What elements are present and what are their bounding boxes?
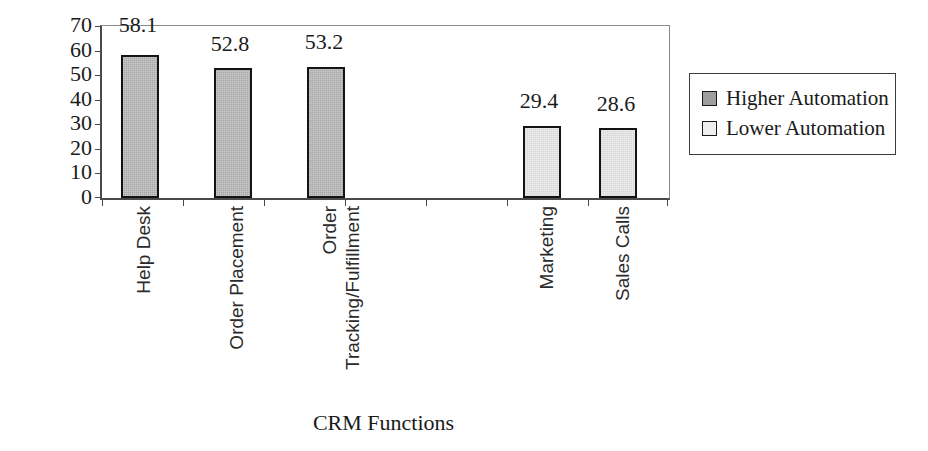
x-tick-mark: [588, 198, 589, 206]
y-tick-label: 0: [52, 186, 92, 208]
bar-value-label-help-desk: 58.1: [98, 14, 178, 36]
legend-swatch-icon: [702, 121, 717, 136]
legend: Higher Automation Lower Automation: [689, 73, 896, 155]
y-tick-mark: [95, 124, 102, 125]
bar-order-tracking-fulfillment: [307, 67, 345, 198]
legend-item-higher-automation: Higher Automation: [702, 83, 885, 113]
y-tick-mark: [95, 75, 102, 76]
y-tick-label: 30: [52, 112, 92, 134]
x-axis-label-text-line1: Order: [318, 206, 341, 255]
x-tick-mark: [102, 198, 103, 206]
y-axis-tick-labels: 70 60 50 40 30 20 10 0: [48, 0, 92, 451]
y-tick-label: 60: [52, 39, 92, 61]
y-tick-mark: [95, 149, 102, 150]
x-tick-mark: [667, 198, 668, 206]
y-tick-mark: [95, 51, 102, 52]
x-axis-label-text: Marketing: [535, 206, 558, 289]
legend-item-lower-automation: Lower Automation: [702, 113, 885, 143]
bar-order-placement: [214, 68, 252, 198]
y-tick-label: 10: [52, 161, 92, 183]
y-tick-mark: [95, 100, 102, 101]
x-axis-title: CRM Functions: [100, 410, 667, 436]
bar-chart: Percentage 70 60 50 40 30 20 10 0: [0, 0, 928, 451]
bar-value-label-marketing: 29.4: [499, 90, 579, 112]
x-tick-mark: [507, 198, 508, 206]
x-axis-label-text-line2: Tracking/Fulfillment: [341, 206, 364, 370]
x-tick-mark: [264, 198, 265, 206]
bar-help-desk: [121, 55, 159, 198]
bar-value-label-order-placement: 52.8: [190, 33, 270, 55]
y-tick-mark: [95, 197, 102, 198]
x-axis-label-text: Help Desk: [132, 206, 155, 294]
x-axis-label-text: Sales Calls: [611, 206, 634, 301]
y-tick-label: 70: [52, 14, 92, 36]
x-tick-mark: [345, 198, 346, 206]
bar-value-label-sales-calls: 28.6: [576, 93, 656, 115]
bar-sales-calls: [599, 128, 637, 198]
y-tick-label: 40: [52, 88, 92, 110]
legend-item-label: Higher Automation: [726, 88, 889, 109]
x-tick-mark: [183, 198, 184, 206]
legend-item-label: Lower Automation: [726, 118, 885, 139]
bar-value-label-order-tracking: 53.2: [284, 31, 364, 53]
y-tick-label: 50: [52, 63, 92, 85]
y-tick-label: 20: [52, 137, 92, 159]
legend-swatch-icon: [702, 91, 717, 106]
x-tick-mark: [426, 198, 427, 206]
y-tick-mark: [95, 173, 102, 174]
x-axis-label-text: Order Placement: [225, 206, 248, 350]
bar-marketing: [523, 126, 561, 198]
